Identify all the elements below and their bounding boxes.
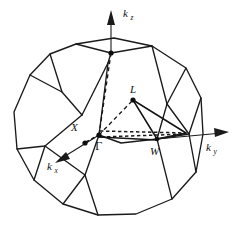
label-X: X: [70, 121, 79, 133]
dot-top-face-center: [108, 50, 113, 55]
axis-label-ky-base: k: [206, 141, 212, 153]
axis-label-kz-base: k: [123, 7, 129, 19]
dot-L: [130, 97, 135, 102]
dot-X: [82, 140, 87, 145]
dot-gamma: [96, 132, 101, 137]
axis-label-kx-sub: x: [53, 166, 58, 175]
brillouin-zone-svg: k z k y k x Γ X L W: [0, 0, 234, 235]
brillouin-zone-figure: k z k y k x Γ X L W: [0, 0, 234, 235]
kz-arrow-head: [107, 10, 115, 25]
axis-label-ky-sub: y: [212, 147, 217, 156]
label-gamma: Γ: [95, 140, 102, 152]
dot-W: [155, 137, 160, 142]
ky-arrow-head: [214, 128, 229, 137]
label-W: W: [150, 145, 160, 157]
axis-label-kz-sub: z: [129, 13, 133, 22]
label-L: L: [129, 83, 136, 95]
